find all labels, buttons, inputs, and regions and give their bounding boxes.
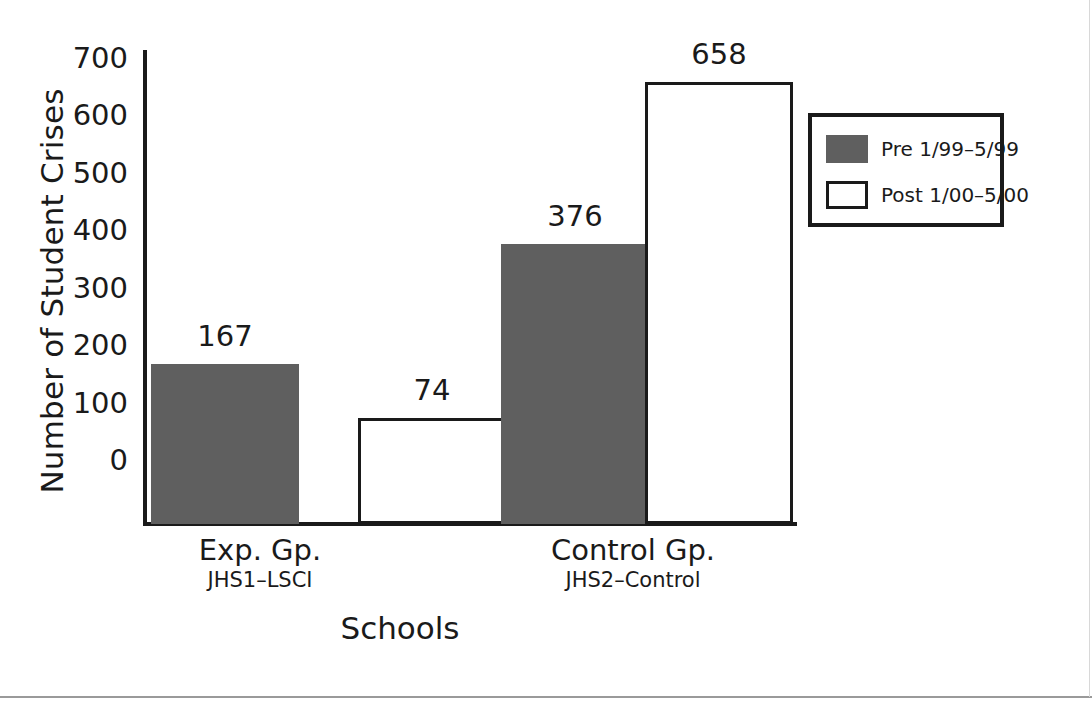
x-axis-group-label-0: Exp. Gp. JHS1–LSCI: [110, 534, 410, 595]
y-tick-label: 700: [0, 44, 128, 73]
legend-label-post: Post 1/00–5/00: [881, 183, 1029, 207]
group-label-main: Control Gp.: [483, 534, 783, 566]
bar-value-label: 167: [151, 322, 299, 351]
x-axis-group-label-1: Control Gp. JHS2–Control: [483, 534, 783, 595]
x-axis-title: Schools: [0, 606, 800, 650]
chart-legend: Pre 1/99–5/99 Post 1/00–5/00: [808, 113, 1004, 227]
bar-value-label: 658: [645, 40, 793, 69]
bar-post-1: [358, 418, 506, 524]
plot-area: 16774376658: [143, 50, 795, 524]
group-label-sub: JHS1–LSCI: [110, 566, 410, 594]
group-label-main: Exp. Gp.: [110, 534, 410, 566]
bar-value-label: 74: [358, 376, 506, 405]
right-divider: [1089, 0, 1090, 697]
legend-item-pre: Pre 1/99–5/99: [826, 130, 1000, 168]
y-axis-title: Number of Student Crises: [31, 71, 73, 511]
bar-pre-2: [501, 244, 649, 524]
legend-item-post: Post 1/00–5/00: [826, 176, 1000, 214]
bar-value-label: 376: [501, 202, 649, 231]
legend-label-pre: Pre 1/99–5/99: [881, 137, 1019, 161]
bottom-divider: [0, 696, 1092, 698]
bar-post-3: [645, 82, 793, 524]
bar-pre-0: [151, 364, 299, 524]
white-outlined-swatch-icon: [826, 181, 868, 209]
bar-chart-figure: Number of Student Crises 700600500400300…: [0, 0, 1092, 714]
group-label-sub: JHS2–Control: [483, 566, 783, 594]
gray-filled-swatch-icon: [826, 135, 868, 163]
